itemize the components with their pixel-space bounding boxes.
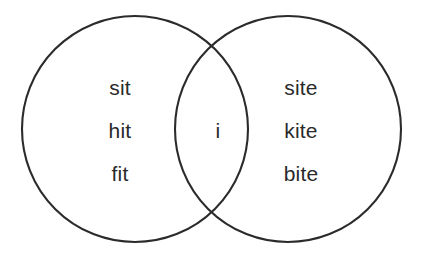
right-only-word-2: kite — [284, 120, 317, 141]
right-only-word-1: site — [284, 77, 317, 98]
right-only-region: site kite bite — [243, 60, 359, 200]
left-only-word-3: fit — [112, 163, 129, 184]
intersection-region: i — [196, 108, 240, 152]
left-only-word-2: hit — [109, 120, 132, 141]
right-only-word-3: bite — [284, 163, 319, 184]
intersection-word-1: i — [216, 120, 221, 141]
left-only-word-1: sit — [109, 77, 131, 98]
left-only-region: sit hit fit — [62, 60, 178, 200]
venn-diagram: sit hit fit i site kite bite — [0, 0, 425, 255]
